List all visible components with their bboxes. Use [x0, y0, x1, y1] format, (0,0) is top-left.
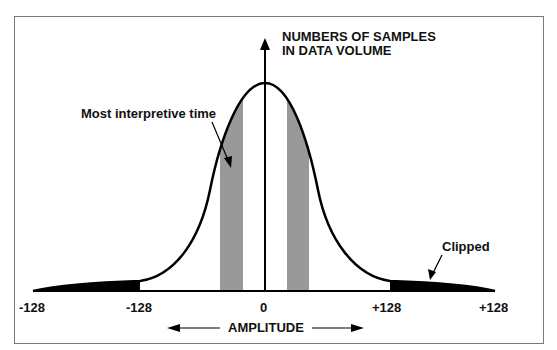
tick-label: 0 [260, 300, 267, 315]
left-arrow-icon [167, 324, 180, 332]
tick-label: +128 [372, 300, 401, 315]
y-axis-label-line1: NUMBERS OF SAMPLES [282, 30, 436, 44]
clipped-label: Clipped [442, 240, 490, 254]
interpretive-label: Most interpretive time [81, 107, 216, 121]
right-arrow-icon [351, 324, 364, 332]
x-axis-label: AMPLITUDE [228, 321, 304, 335]
distribution-diagram [0, 0, 557, 350]
y-axis-arrow-icon [260, 38, 270, 50]
tick-label: -128 [19, 300, 45, 315]
tick-label: +128 [479, 300, 508, 315]
y-axis-label-line2: IN DATA VOLUME [282, 44, 436, 58]
tick-label: -128 [126, 300, 152, 315]
y-axis-label: NUMBERS OF SAMPLES IN DATA VOLUME [282, 30, 436, 58]
